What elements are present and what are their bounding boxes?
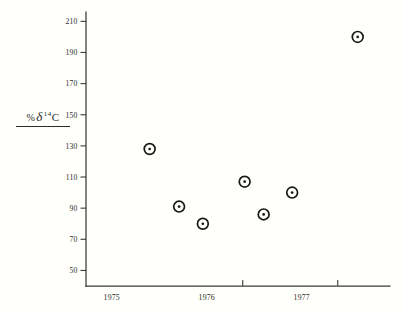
axes-group	[86, 12, 390, 286]
figure-canvas: %δ14C 210190170150130110907050 197519761…	[0, 0, 403, 314]
data-point-marker	[197, 218, 208, 229]
y-tick-label: 90	[70, 204, 78, 213]
y-tick-label: 70	[70, 235, 78, 244]
scatter-plot: 210190170150130110907050 197519761977	[0, 0, 403, 314]
data-point-marker	[174, 201, 185, 212]
y-tick-label: 210	[66, 17, 78, 26]
y-tick-label: 170	[66, 79, 78, 88]
data-point-marker	[144, 144, 155, 155]
x-tick-label: 1975	[104, 293, 120, 302]
x-axis-ticks: 197519761977	[104, 280, 338, 302]
data-point-marker	[287, 187, 298, 198]
x-tick-label: 1976	[199, 293, 215, 302]
data-points-group	[144, 32, 363, 230]
data-point-marker	[258, 209, 269, 220]
y-tick-label: 50	[70, 266, 78, 275]
y-tick-label: 190	[66, 48, 78, 57]
y-tick-label: 130	[66, 142, 78, 151]
x-tick-label: 1977	[294, 293, 310, 302]
y-axis-ticks: 210190170150130110907050	[66, 17, 87, 275]
data-point-marker	[239, 176, 250, 187]
y-tick-label: 110	[66, 173, 78, 182]
y-tick-label: 150	[66, 111, 78, 120]
data-point-marker	[352, 32, 363, 43]
